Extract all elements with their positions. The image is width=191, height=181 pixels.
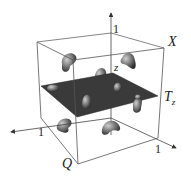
right-axis — [111, 118, 176, 148]
top-axis-tick-label: 1 — [113, 23, 119, 35]
cube-back-edges — [37, 33, 164, 48]
plane-label: Tz — [164, 90, 175, 107]
blob — [47, 85, 59, 92]
blob — [121, 53, 136, 69]
origin-label: Q — [62, 157, 72, 171]
blob — [135, 95, 141, 100]
cube-diagram — [0, 0, 191, 181]
right-axis-tick-label: 1 — [155, 143, 161, 155]
z-label: z — [114, 62, 118, 73]
blob — [62, 53, 77, 72]
left-axis-tick-label: 1 — [38, 126, 44, 138]
x-label: X — [168, 35, 177, 49]
